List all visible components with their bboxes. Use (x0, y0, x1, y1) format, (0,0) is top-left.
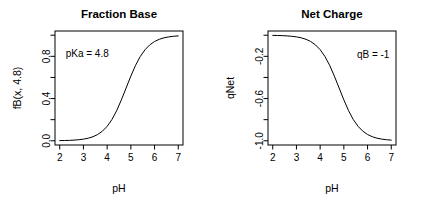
figure-canvas: Fraction Base2345670.00.40.8pHfB(x, 4.8)… (0, 0, 425, 208)
x-tick-label: 7 (388, 152, 394, 163)
chart-net-charge: Net Charge234567-1.0-0.6-0.2pHqNetqB = -… (213, 0, 425, 208)
plot-annotation: qB = -1 (357, 49, 390, 60)
panel-title: Net Charge (301, 8, 362, 20)
x-tick-label: 6 (365, 152, 371, 163)
y-axis-label: fB(x, 4.8) (11, 67, 23, 110)
x-tick-label: 3 (81, 152, 87, 163)
x-axis-label: pH (112, 182, 125, 194)
y-tick-label: 0.0 (42, 133, 53, 147)
x-tick-label: 2 (57, 152, 63, 163)
y-tick-label: -1.0 (255, 132, 266, 150)
x-tick-label: 4 (104, 152, 110, 163)
y-tick-label: 0.8 (42, 49, 53, 63)
y-tick-label: -0.2 (255, 47, 266, 65)
x-tick-label: 6 (152, 152, 158, 163)
y-tick-label: -0.6 (255, 90, 266, 108)
x-tick-label: 3 (294, 152, 300, 163)
x-tick-label: 2 (270, 152, 276, 163)
plot-annotation: pKa = 4.8 (66, 48, 110, 59)
x-tick-label: 5 (341, 152, 347, 163)
x-axis-label: pH (325, 182, 338, 194)
y-tick-label: 0.4 (42, 91, 53, 105)
x-tick-label: 4 (317, 152, 323, 163)
x-tick-label: 7 (175, 152, 181, 163)
plot-panel-fraction-base: Fraction Base2345670.00.40.8pHfB(x, 4.8)… (0, 0, 212, 208)
panel-title: Fraction Base (81, 8, 157, 20)
plot-panel-net-charge: Net Charge234567-1.0-0.6-0.2pHqNetqB = -… (213, 0, 425, 208)
x-tick-label: 5 (128, 152, 134, 163)
chart-fraction-base: Fraction Base2345670.00.40.8pHfB(x, 4.8)… (0, 0, 212, 208)
y-axis-label: qNet (224, 77, 236, 99)
